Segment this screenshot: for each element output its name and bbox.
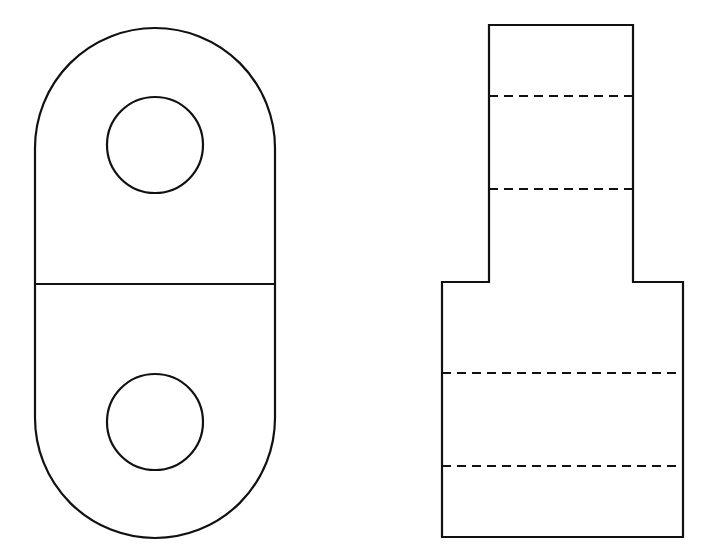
right-view	[442, 25, 683, 537]
upper-hole	[107, 97, 203, 193]
lower-hole	[107, 374, 203, 470]
technical-drawing	[0, 0, 707, 557]
left-view	[35, 28, 275, 538]
stepped-profile-outline	[442, 25, 683, 537]
